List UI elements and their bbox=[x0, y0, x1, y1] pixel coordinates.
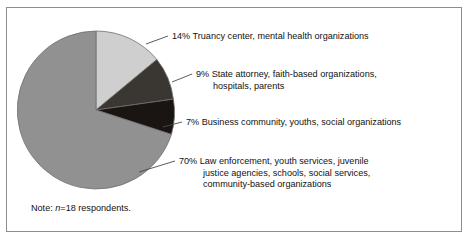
pie-label-7-line1: 7% Business community, youths, social or… bbox=[186, 117, 401, 127]
pie-label-7: 7% Business community, youths, social or… bbox=[186, 117, 401, 129]
pie-label-70-line1: 70% Law enforcement, youth services, juv… bbox=[179, 156, 369, 166]
pie-chart-figure: 14% Truancy center, mental health organi… bbox=[0, 0, 469, 241]
pie-label-14-line1: 14% Truancy center, mental health organi… bbox=[172, 31, 369, 41]
pie-label-9-line2: hospitals, parents bbox=[196, 81, 377, 93]
figure-note-suffix: =18 respondents. bbox=[60, 203, 131, 213]
pie-label-9: 9% State attorney, faith-based organizat… bbox=[196, 69, 377, 92]
figure-note-prefix: Note: bbox=[31, 203, 55, 213]
pie-label-70-line2: justice agencies, schools, social servic… bbox=[179, 168, 370, 180]
pie-label-14: 14% Truancy center, mental health organi… bbox=[172, 31, 369, 43]
pie-label-70-line3: community-based organizations bbox=[179, 179, 370, 191]
pie-label-70: 70% Law enforcement, youth services, juv… bbox=[179, 156, 370, 191]
leader-line-14 bbox=[146, 36, 168, 44]
pie-label-9-line1: 9% State attorney, faith-based organizat… bbox=[196, 69, 377, 79]
figure-note: Note: n=18 respondents. bbox=[31, 203, 131, 213]
leader-line-9 bbox=[172, 74, 192, 82]
